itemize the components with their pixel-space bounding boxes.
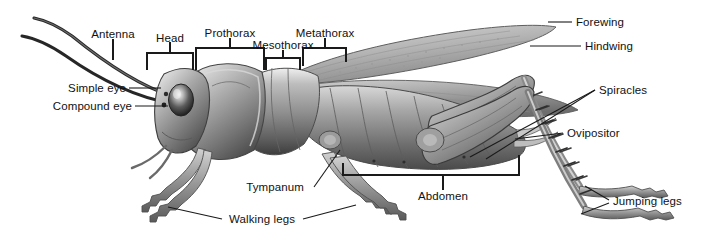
- mesothorax-bracket: [266, 50, 300, 70]
- head-bracket: [147, 42, 193, 70]
- label-mesothorax: Mesothorax: [252, 39, 313, 51]
- label-head: Head: [156, 32, 184, 44]
- label-hindwing: Hindwing: [585, 40, 633, 52]
- jumping-legs-leader: [581, 186, 609, 214]
- label-walking-legs: Walking legs: [229, 213, 295, 225]
- label-tympanum: Tympanum: [246, 181, 304, 193]
- anatomy-figure: Antenna Head Prothorax Mesothorax Metath…: [0, 0, 711, 243]
- label-ovipositor: Ovipositor: [567, 127, 620, 139]
- label-antenna: Antenna: [91, 28, 135, 40]
- label-abdomen: Abdomen: [418, 190, 468, 202]
- label-spiracles: Spiracles: [599, 84, 647, 96]
- label-compound-eye: Compound eye: [53, 100, 132, 112]
- label-metathorax: Metathorax: [296, 27, 355, 39]
- spiracles-leader: [470, 90, 595, 159]
- tympanum-leader: [314, 150, 340, 187]
- abdomen-bracket: [343, 155, 519, 190]
- label-jumping-legs: Jumping legs: [613, 195, 682, 207]
- label-simple-eye: Simple eye: [68, 82, 126, 94]
- label-prothorax: Prothorax: [205, 27, 256, 39]
- label-forewing: Forewing: [576, 16, 624, 28]
